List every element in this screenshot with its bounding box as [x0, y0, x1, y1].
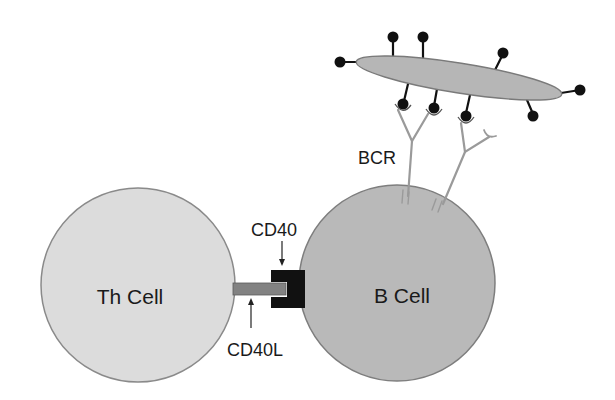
- cd40-label: CD40: [251, 220, 297, 240]
- bcell-activation-diagram: Th Cell B Cell CD40 CD40L BCR: [0, 0, 615, 400]
- bcr-label: BCR: [358, 148, 396, 168]
- cd40l-label: CD40L: [227, 340, 283, 360]
- th-cell-label: Th Cell: [97, 285, 164, 308]
- cd40l-ligand: [233, 283, 286, 295]
- cd40l-arrow-icon: [248, 298, 254, 328]
- b-cell-label: B Cell: [374, 284, 430, 307]
- th-cell: Th Cell: [41, 188, 235, 382]
- b-cell: B Cell: [299, 185, 495, 381]
- cd40-arrow-icon: [279, 241, 285, 266]
- antigen: [335, 32, 586, 124]
